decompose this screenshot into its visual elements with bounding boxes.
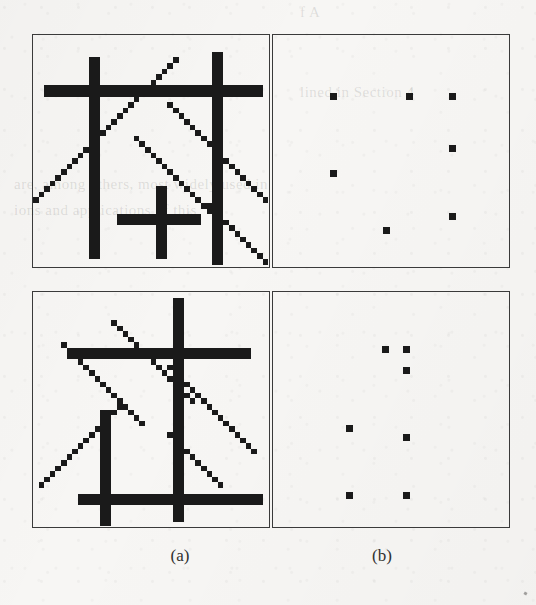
stroke-pixel — [201, 136, 207, 142]
stroke-pixel — [173, 370, 179, 376]
stroke-pixel — [190, 398, 196, 404]
panel-top-right-canvas — [273, 35, 508, 266]
stroke-pixel — [179, 443, 185, 449]
stroke-pixel — [207, 471, 213, 477]
stroke-pixel — [106, 125, 112, 131]
stroke-pixel — [61, 169, 67, 175]
stroke-pixel — [218, 220, 224, 226]
stroke-pixel — [229, 225, 235, 231]
stroke-pixel — [151, 80, 157, 86]
stroke-pixel — [173, 57, 179, 63]
stroke-pixel — [218, 214, 224, 220]
stroke-pixel — [235, 432, 241, 438]
stroke-pixel — [55, 466, 61, 472]
stroke-pixel — [218, 415, 224, 421]
stroke-pixel — [218, 482, 224, 488]
stroke-pixel — [151, 359, 157, 365]
stroke-pixel — [263, 197, 268, 203]
stroke-pixel — [167, 169, 173, 175]
stroke-pixel — [123, 331, 129, 337]
stroke-pixel — [100, 382, 106, 388]
horizontal-line-1 — [67, 348, 252, 359]
stroke-pixel — [184, 393, 190, 399]
stroke-pixel — [207, 404, 213, 410]
stroke-pixel — [201, 203, 207, 209]
stroke-pixel — [156, 74, 162, 80]
stroke-pixel — [162, 164, 168, 170]
diagonal-up-1 — [33, 57, 179, 203]
stroke-pixel — [207, 141, 213, 147]
stroke-pixel — [55, 175, 61, 181]
stroke-pixel — [83, 365, 89, 371]
stroke-pixel — [123, 404, 129, 410]
stroke-pixel — [156, 158, 162, 164]
stroke-pixel — [95, 376, 101, 382]
stroke-pixel — [184, 449, 190, 455]
stroke-pixel — [145, 354, 151, 360]
stroke-segment — [156, 186, 167, 259]
stroke-pixel — [83, 438, 89, 444]
stroke-pixel — [179, 113, 185, 119]
stroke-pixel — [212, 209, 218, 215]
stroke-pixel — [111, 119, 117, 125]
stroke-pixel — [223, 158, 229, 164]
stroke-pixel — [134, 342, 140, 348]
stroke-pixel — [167, 432, 173, 438]
stroke-pixel — [61, 460, 67, 466]
stroke-pixel — [207, 203, 213, 209]
stroke-pixel — [246, 443, 252, 449]
stroke-segment — [44, 85, 262, 96]
stroke-pixel — [212, 214, 218, 220]
stroke-pixel — [195, 197, 201, 203]
stroke-pixel — [190, 387, 196, 393]
stroke-pixel — [67, 348, 73, 354]
stroke-pixel — [195, 460, 201, 466]
stroke-pixel — [190, 125, 196, 131]
stroke-pixel — [151, 153, 157, 159]
stroke-pixel — [246, 242, 252, 248]
stroke-pixel — [117, 113, 123, 119]
stroke-pixel — [89, 370, 95, 376]
horizontal-line-1 — [44, 85, 262, 96]
stroke-pixel — [179, 376, 185, 382]
figure-root: f Alined in Section 4are, among others, … — [0, 0, 536, 605]
stroke-pixel — [173, 382, 179, 388]
stroke-pixel — [229, 426, 235, 432]
intersection-point — [330, 93, 337, 100]
intersection-point — [383, 227, 390, 234]
intersection-point — [403, 346, 410, 353]
stroke-pixel — [179, 387, 185, 393]
stroke-pixel — [156, 365, 162, 371]
stroke-pixel — [100, 130, 106, 136]
stroke-pixel — [89, 141, 95, 147]
stroke-pixel — [167, 376, 173, 382]
stroke-pixel — [134, 415, 140, 421]
stroke-pixel — [72, 449, 78, 455]
panel-top-right — [272, 34, 510, 268]
panel-bottom-left — [32, 291, 270, 528]
stroke-pixel — [72, 354, 78, 360]
stroke-pixel — [128, 337, 134, 343]
diagonal-down-2 — [134, 136, 224, 226]
stroke-pixel — [39, 192, 45, 198]
stroke-segment — [67, 348, 252, 359]
intersection-point — [330, 170, 337, 177]
stroke-pixel — [184, 382, 190, 388]
stroke-pixel — [134, 97, 140, 103]
caption-a: (a) — [120, 546, 240, 566]
stroke-pixel — [212, 147, 218, 153]
stroke-pixel — [167, 365, 173, 371]
panel-top-left-canvas — [33, 35, 268, 266]
stroke-pixel — [212, 477, 218, 483]
stroke-pixel — [251, 449, 257, 455]
stroke-pixel — [100, 421, 106, 427]
stroke-pixel — [123, 108, 129, 114]
panel-bottom-right-canvas — [273, 292, 508, 526]
stroke-pixel — [111, 410, 117, 416]
stroke-pixel — [72, 158, 78, 164]
stroke-pixel — [111, 393, 117, 399]
stroke-pixel — [235, 169, 241, 175]
stroke-pixel — [95, 426, 101, 432]
vertical-line-3 — [156, 186, 167, 259]
stroke-pixel — [128, 102, 134, 108]
